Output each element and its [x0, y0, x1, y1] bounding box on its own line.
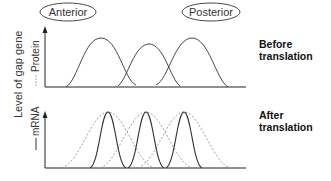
legend-mrna: mRNA [30, 106, 41, 150]
svg-text:Protein: Protein [30, 40, 41, 72]
gap-gene-diagram: Anterior Posterior Level of gap gene Pro… [0, 0, 331, 181]
svg-text:mRNA: mRNA [30, 106, 41, 136]
after-translation-mrna-curves [90, 112, 202, 168]
before-translation-curves [66, 38, 228, 87]
svg-text:translation: translation [259, 50, 313, 62]
y-axis-title: Level of gap gene [12, 31, 24, 118]
after-translation-protein-curves [62, 112, 230, 168]
anterior-label: Anterior [40, 3, 96, 21]
posterior-label: Posterior [182, 3, 240, 21]
after-translation-label: After translation [259, 109, 313, 133]
svg-text:Posterior: Posterior [189, 6, 233, 18]
legend-protein: Protein [30, 40, 41, 86]
before-translation-label: Before translation [259, 38, 313, 62]
svg-text:translation: translation [259, 121, 313, 133]
svg-text:Anterior: Anterior [49, 6, 88, 18]
bottom-axes [43, 111, 247, 168]
svg-text:After: After [259, 109, 284, 121]
svg-text:Before: Before [259, 38, 292, 50]
